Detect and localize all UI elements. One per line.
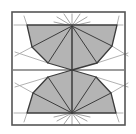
geometric-figure — [0, 0, 136, 134]
diagram-canvas — [0, 0, 136, 134]
